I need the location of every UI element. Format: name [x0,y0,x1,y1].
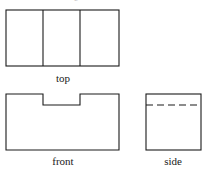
top-view-drawing [0,6,130,70]
front-view-label: front [0,155,126,167]
side-view-drawing [140,90,210,154]
front-view-drawing [0,90,130,154]
front-view-notched-outline [6,94,119,150]
cropped-text-remnant: e [68,0,84,2]
front-view [0,90,130,154]
top-view-outline [6,10,119,66]
side-view [140,90,210,154]
orthographic-drawing-figure: e top front side [0,0,215,173]
top-view-label: top [0,72,126,84]
top-view [0,6,130,70]
side-view-label: side [138,155,208,167]
side-view-outline [146,94,201,150]
